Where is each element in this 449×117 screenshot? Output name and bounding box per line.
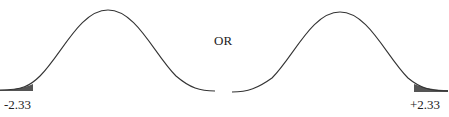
right-normal-curve: +2.33 [232,12,448,112]
diagram-canvas: -2.33 OR +2.33 [0,0,449,117]
or-connector-label: OR [214,33,232,48]
right-curve-line [232,12,448,92]
left-critical-value-label: -2.33 [4,97,31,112]
left-normal-curve: -2.33 [0,10,215,112]
right-critical-value-label: +2.33 [410,97,440,112]
left-curve-line [0,10,215,91]
